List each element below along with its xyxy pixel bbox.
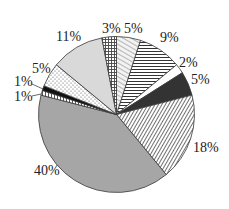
label-slice-18pct: 18% <box>193 140 219 155</box>
leader-line-1pct-striped <box>32 94 41 96</box>
label-slice-2pct: 2% <box>179 55 198 70</box>
pie-chart: 3% 5% 9% 2% 5% 18% 40% 1% 1% 5% 11% <box>0 0 229 209</box>
label-slice-40pct: 40% <box>34 163 60 178</box>
label-slice-9pct: 9% <box>160 30 179 45</box>
label-slice-5pct-top: 5% <box>124 21 143 36</box>
label-slice-1pct-black: 1% <box>14 74 33 89</box>
label-slice-1pct-striped: 1% <box>14 89 33 104</box>
label-slice-5pct-right: 5% <box>191 72 210 87</box>
leader-line-1pct-black <box>32 84 43 89</box>
label-slice-11pct: 11% <box>56 29 81 44</box>
label-slice-5pct-left: 5% <box>32 61 51 76</box>
label-slice-3pct: 3% <box>102 21 121 36</box>
pie-slices <box>38 37 194 193</box>
